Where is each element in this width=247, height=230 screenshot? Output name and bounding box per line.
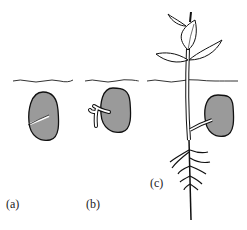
- seedling-c: [156, 12, 234, 220]
- germination-diagram: [0, 0, 247, 230]
- panel-label-c: (c): [150, 176, 163, 191]
- seed-b: [90, 88, 131, 132]
- panel-label-a: (a): [6, 197, 19, 212]
- panel-label-b: (b): [86, 197, 100, 212]
- soil-lines: [13, 80, 238, 82]
- seed-a: [28, 92, 59, 140]
